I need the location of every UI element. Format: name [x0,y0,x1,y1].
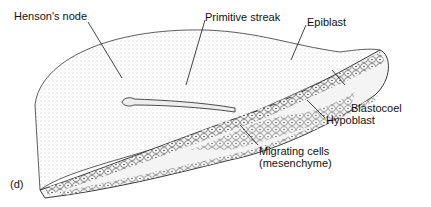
panel-label: (d) [10,178,23,190]
label-hensons-node: Henson's node [14,10,87,22]
label-blastocoel: Blastocoel [351,102,402,114]
label-mesenchyme: (mesenchyme) [259,157,332,169]
label-hypoblast: Hypoblast [326,114,375,126]
label-epiblast: Epiblast [307,16,346,28]
label-primitive-streak: Primitive streak [205,11,280,23]
label-migrating-cells: Migrating cells [259,145,329,157]
